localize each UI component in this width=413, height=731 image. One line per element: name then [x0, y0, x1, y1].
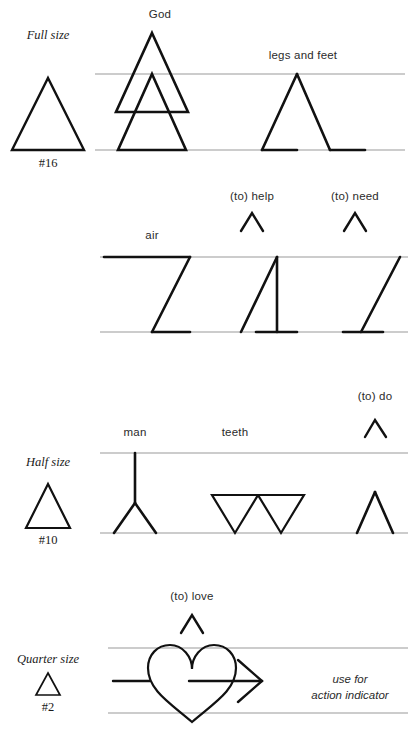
glyph-label-air: air	[145, 229, 158, 242]
to-help-diagonal	[241, 257, 277, 332]
glyph-label-man: man	[124, 426, 147, 439]
teeth-left-tooth	[212, 495, 258, 533]
glyph-to-love	[113, 615, 262, 722]
glyph-label-to-do: (to) do	[358, 390, 393, 403]
size-key-quarter-triangle	[36, 673, 60, 695]
to-do-left-side	[357, 492, 375, 533]
legs-and-feet-right-leg	[297, 74, 330, 150]
blissymbol-chart-canvas	[0, 0, 413, 731]
to-need-diagonal	[361, 257, 400, 332]
to-help-action-chevron	[241, 213, 263, 231]
size-key-half-number: #10	[39, 533, 58, 547]
glyph-label-to-need: (to) need	[331, 190, 379, 203]
teeth-right-tooth	[258, 495, 304, 533]
size-key-half-label: Half size	[26, 455, 70, 469]
to-do-action-chevron	[365, 420, 386, 437]
to-need-action-chevron	[344, 213, 366, 231]
glyph-label-to-help: (to) help	[230, 190, 274, 203]
size-key-half-triangle	[26, 484, 70, 528]
man-right-leg	[135, 503, 156, 533]
to-do-right-side	[375, 492, 393, 533]
air-diagonal-stroke	[152, 257, 190, 332]
glyph-teeth	[212, 495, 304, 533]
legs-and-feet-left-leg	[262, 74, 297, 150]
size-key-quarter-label: Quarter size	[17, 652, 79, 666]
action-indicator-note-line-1: use for	[311, 672, 388, 688]
man-left-leg	[114, 503, 135, 533]
glyph-label-god: God	[149, 8, 171, 21]
size-key-full-number: #16	[39, 156, 58, 170]
action-indicator-note-line-2: action indicator	[311, 688, 388, 704]
size-key-full-label: Full size	[27, 28, 70, 42]
size-key-quarter-number: #2	[42, 700, 55, 714]
glyph-to-help	[241, 213, 297, 332]
glyph-label-to-love: (to) love	[170, 590, 213, 603]
glyph-to-need	[343, 213, 400, 332]
size-key-full-triangle	[12, 78, 84, 150]
glyph-label-legs-and-feet: legs and feet	[269, 49, 337, 62]
glyph-label-teeth: teeth	[222, 426, 249, 439]
action-indicator-note: use for action indicator	[311, 672, 388, 703]
to-love-action-chevron	[181, 615, 203, 633]
glyph-man	[114, 453, 156, 533]
glyph-to-do	[357, 420, 393, 533]
row-2-guidelines	[100, 257, 408, 332]
to-love-heart	[148, 645, 236, 722]
glyph-legs-and-feet	[262, 74, 365, 150]
glyph-god	[116, 33, 188, 150]
glyph-air	[104, 257, 190, 332]
